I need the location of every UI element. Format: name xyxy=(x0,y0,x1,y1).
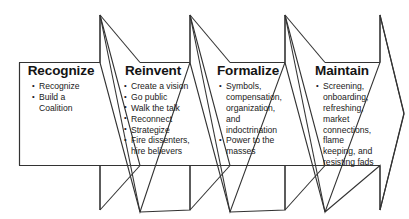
list-item: Reconnect xyxy=(124,114,190,125)
list-item: Go public xyxy=(124,92,190,103)
stage-heading-formalize: Formalize xyxy=(211,64,285,78)
stage-maintain: Maintain Screening, onboarding, refreshi… xyxy=(306,64,378,168)
list-item: Screening, onboarding, refreshing, marke… xyxy=(316,81,378,168)
arrow-tip-upper xyxy=(380,15,404,113)
stage-heading-reinvent: Reinvent xyxy=(116,64,190,78)
stage-list-formalize: Symbols, compensation, organization, and… xyxy=(211,81,285,157)
stage-list-maintain: Screening, onboarding, refreshing, marke… xyxy=(306,81,378,168)
list-item: Fire dissenters, hire believers xyxy=(124,135,190,157)
stage-list-recognize: Recognize Build a Coalition xyxy=(24,81,98,114)
stage-recognize: Recognize Recognize Build a Coalition xyxy=(24,64,98,114)
list-item: Symbols, compensation, organization, and… xyxy=(219,81,285,135)
stage-formalize: Formalize Symbols, compensation, organiz… xyxy=(211,64,285,157)
list-item: Strategize xyxy=(124,125,190,136)
chevron-process-diagram: Recognize Recognize Build a Coalition Re… xyxy=(0,0,409,219)
list-item: Power to the masses xyxy=(219,135,285,157)
stage-list-reinvent: Create a vision Go public Walk the talk … xyxy=(116,81,190,157)
list-item: Build a Coalition xyxy=(32,92,98,114)
list-item: Create a vision xyxy=(124,81,190,92)
stage-reinvent: Reinvent Create a vision Go public Walk … xyxy=(116,64,190,157)
stage-heading-maintain: Maintain xyxy=(306,64,378,78)
list-item: Walk the talk xyxy=(124,103,190,114)
stage-heading-recognize: Recognize xyxy=(24,64,98,78)
arrow-tip-lower xyxy=(380,113,404,210)
list-item: Recognize xyxy=(32,81,98,92)
